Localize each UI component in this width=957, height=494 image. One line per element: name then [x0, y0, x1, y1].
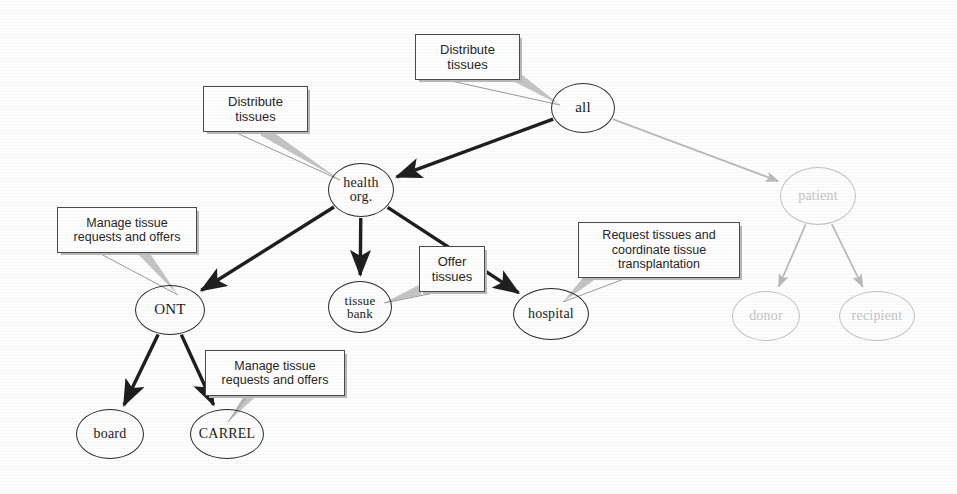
node-label-donor: donor	[749, 309, 783, 323]
node-label-ont: ONT	[154, 302, 185, 317]
annot-carrel[interactable]: Manage tissuerequests and offers	[205, 350, 345, 396]
edge-ont-to-board	[124, 335, 158, 406]
node-all[interactable]: all	[551, 83, 615, 133]
node-label-carrel: CARREL	[199, 427, 255, 441]
annot-health-text: Distributetissues	[207, 94, 304, 124]
edge-patient-to-recipient	[832, 224, 863, 287]
node-label-board: board	[94, 427, 127, 441]
annot-hospital[interactable]: Request tissues andcoordinate tissuetran…	[578, 222, 740, 278]
diagram-canvas: allhealthorg.patientONTtissuebankhospita…	[0, 0, 957, 494]
node-label-health: healthorg.	[343, 176, 378, 205]
node-health[interactable]: healthorg.	[328, 163, 394, 217]
annot-hospital-text: Request tissues andcoordinate tissuetran…	[582, 228, 736, 272]
node-ont[interactable]: ONT	[135, 285, 205, 335]
node-label-hospital: hospital	[528, 307, 574, 321]
node-label-all: all	[575, 100, 591, 115]
annot-all-text: Distributetissues	[419, 42, 516, 72]
node-label-tissuebank: tissuebank	[345, 294, 376, 321]
annot-health[interactable]: Distributetissues	[203, 86, 308, 132]
edge-health-to-ont	[201, 207, 334, 290]
node-carrel[interactable]: CARREL	[190, 409, 264, 459]
node-patient[interactable]: patient	[780, 167, 856, 225]
annot-health-pointer-wedge	[260, 127, 340, 180]
node-donor[interactable]: donor	[732, 291, 800, 341]
node-label-patient: patient	[798, 189, 838, 203]
annot-health-leader-line	[235, 132, 341, 180]
edge-all-to-health	[397, 119, 553, 177]
edge-patient-to-donor	[779, 224, 806, 286]
annot-all[interactable]: Distributetissues	[415, 34, 520, 80]
annot-carrel-text: Manage tissuerequests and offers	[209, 359, 341, 388]
annot-ont-text: Manage tissuerequests and offers	[61, 216, 193, 245]
annot-tissuebank-text: Offertissues	[423, 254, 481, 284]
edge-all-to-patient	[613, 119, 778, 181]
node-hospital[interactable]: hospital	[513, 288, 589, 340]
annot-tissuebank[interactable]: Offertissues	[419, 246, 485, 292]
annot-ont[interactable]: Manage tissuerequests and offers	[57, 207, 197, 253]
node-recipient[interactable]: recipient	[839, 291, 915, 341]
node-board[interactable]: board	[76, 409, 144, 459]
node-label-recipient: recipient	[852, 309, 903, 323]
node-tissuebank[interactable]: tissuebank	[328, 281, 392, 333]
